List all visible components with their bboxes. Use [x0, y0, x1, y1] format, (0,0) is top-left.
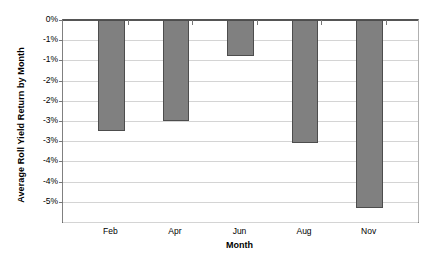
y-tick-mark [59, 182, 63, 183]
y-tick-mark [59, 141, 63, 142]
x-tick-mark [257, 20, 258, 25]
y-tick-mark [59, 40, 63, 41]
gridline [63, 222, 418, 223]
y-tick-mark [59, 161, 63, 162]
y-tick-label: -2% [22, 95, 58, 105]
x-tick-mark [128, 20, 129, 25]
y-tick-label: 0% [22, 14, 58, 24]
y-tick-mark [59, 20, 63, 21]
y-tick-label: -4% [22, 176, 58, 186]
x-tick-mark [386, 20, 387, 25]
x-tick-label: Jun [233, 226, 247, 236]
x-tick-mark [192, 20, 193, 25]
x-tick-label: Feb [103, 226, 118, 236]
plot-area [62, 19, 419, 223]
bar [356, 20, 382, 208]
bar [98, 20, 124, 131]
y-axis-tick-labels: 0%-1%-1%-2%-2%-3%-3%-4%-4%-5% [22, 19, 58, 221]
y-tick-mark [59, 60, 63, 61]
bar [227, 20, 253, 56]
x-axis-tick-labels: FebAprJunAugNov [62, 226, 417, 240]
y-tick-label: -5% [22, 196, 58, 206]
x-axis-title: Month [62, 240, 417, 250]
y-tick-mark [59, 101, 63, 102]
y-tick-label: -1% [22, 34, 58, 44]
y-tick-label: -3% [22, 115, 58, 125]
x-tick-label: Apr [168, 226, 181, 236]
y-tick-label: -2% [22, 75, 58, 85]
x-tick-mark [321, 20, 322, 25]
bar [163, 20, 189, 121]
y-tick-mark [59, 81, 63, 82]
y-tick-label: -4% [22, 155, 58, 165]
y-tick-label: -1% [22, 54, 58, 64]
y-tick-mark [59, 121, 63, 122]
y-tick-mark [59, 202, 63, 203]
bar [292, 20, 318, 143]
x-tick-label: Nov [361, 226, 376, 236]
bar-chart: Average Roll Yield Return by Month 0%-1%… [0, 0, 439, 269]
y-tick-label: -3% [22, 135, 58, 145]
x-tick-label: Aug [296, 226, 311, 236]
